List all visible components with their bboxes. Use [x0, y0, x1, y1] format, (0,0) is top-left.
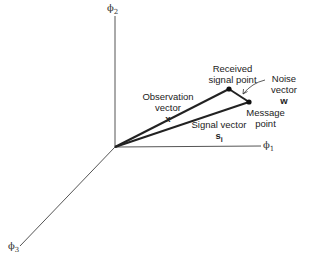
- noise-vector-label: Noise vector w: [264, 73, 304, 106]
- phi3-label: ϕ3: [8, 240, 19, 254]
- diagram-canvas: [0, 0, 311, 260]
- phi1-axis: [115, 146, 261, 147]
- phi1-label: ϕ1: [263, 139, 274, 153]
- received-signal-point: [226, 86, 231, 91]
- phi2-label: ϕ2: [107, 2, 118, 16]
- phi3-axis: [20, 147, 115, 246]
- message-point: [246, 99, 251, 104]
- signal-vector-label: Signal vector si: [184, 119, 254, 145]
- received-signal-point-label: Received signal point: [200, 63, 265, 85]
